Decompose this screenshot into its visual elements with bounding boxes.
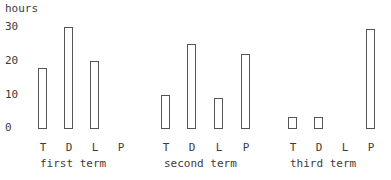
y-tick-10: 10 — [5, 89, 18, 101]
bar-T-2 — [161, 95, 170, 129]
cat-label-P-2: P — [239, 142, 253, 154]
cat-label-D-2: D — [185, 142, 199, 154]
y-axis-label: hours — [5, 3, 38, 15]
bar-D-1 — [64, 27, 73, 129]
cat-label-L-2: L — [212, 142, 226, 154]
cat-label-T-2: T — [159, 142, 173, 154]
cat-label-D-1: D — [62, 142, 76, 154]
y-tick-0: 0 — [5, 122, 12, 134]
group-label-third-term: third term — [290, 158, 356, 170]
y-tick-30: 30 — [5, 21, 18, 33]
group-label-first-term: first term — [40, 158, 106, 170]
bar-L-1 — [90, 61, 99, 129]
y-tick-20: 20 — [5, 55, 18, 67]
bar-D-2 — [187, 44, 196, 129]
cat-label-D-3: D — [312, 142, 326, 154]
bar-P-3 — [366, 29, 375, 129]
bar-D-3 — [314, 117, 323, 129]
bar-L-2 — [214, 98, 223, 129]
bar-T-1 — [38, 68, 47, 129]
cat-label-P-1: P — [114, 142, 128, 154]
cat-label-L-3: L — [338, 142, 352, 154]
cat-label-P-3: P — [364, 142, 378, 154]
group-label-second-term: second term — [164, 158, 237, 170]
bar-P-2 — [241, 54, 250, 129]
bar-chart: hours 30 20 10 0 T D L P T D L P T D L P… — [0, 0, 391, 180]
cat-label-T-1: T — [36, 142, 50, 154]
bar-T-3 — [288, 117, 297, 129]
cat-label-T-3: T — [286, 142, 300, 154]
cat-label-L-1: L — [88, 142, 102, 154]
